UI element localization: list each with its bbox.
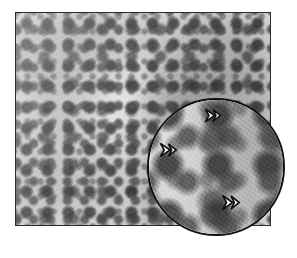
figure-root: Grayscale histopathology micrograph show…: [0, 0, 297, 258]
magnified-inset: [147, 98, 285, 236]
inset-film-grain-overlay: [149, 100, 283, 234]
